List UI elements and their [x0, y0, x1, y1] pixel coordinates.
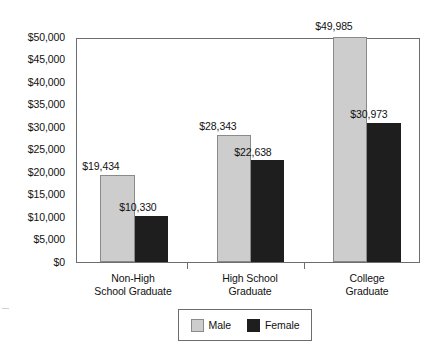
- value-label-male-high-school: $28,343: [183, 120, 253, 132]
- y-tick-label: $50,000: [1, 32, 65, 43]
- bar-male-non-high-school: [100, 175, 135, 262]
- x-category-line2: Graduate: [307, 285, 427, 298]
- value-label-female-high-school: $22,638: [218, 146, 288, 158]
- y-tick-label: $40,000: [1, 77, 65, 88]
- legend-swatch-female-icon: [247, 319, 260, 332]
- y-tick-label: $25,000: [1, 144, 65, 155]
- x-category-line1: Non-High: [73, 272, 193, 285]
- legend-item-male: Male: [191, 319, 231, 332]
- x-axis-separator: [304, 263, 305, 269]
- value-label-male-college: $49,985: [299, 20, 369, 32]
- y-tick-label: $45,000: [1, 54, 65, 65]
- bar-chart: $50,000 $45,000 $40,000 $35,000 $30,000 …: [0, 0, 443, 360]
- legend-item-female: Female: [247, 319, 299, 332]
- value-label-male-non-high-school: $19,434: [66, 160, 136, 172]
- x-category-line2: School Graduate: [73, 285, 193, 298]
- y-tick-label: $20,000: [1, 167, 65, 178]
- legend-label-male: Male: [209, 319, 231, 331]
- bar-female-non-high-school: [135, 216, 168, 263]
- x-axis-separator: [187, 263, 188, 269]
- x-category-line1: College: [307, 272, 427, 285]
- value-label-female-non-high-school: $10,330: [103, 201, 173, 213]
- x-category-line1: High School: [190, 272, 310, 285]
- value-label-female-college: $30,973: [334, 108, 404, 120]
- x-category-non-high-school: Non-High School Graduate: [73, 272, 193, 298]
- y-tick-label: $35,000: [1, 99, 65, 110]
- y-tick-label: $30,000: [1, 122, 65, 133]
- bar-male-college: [333, 37, 367, 262]
- x-category-high-school: High School Graduate: [190, 272, 310, 298]
- y-axis: $50,000 $45,000 $40,000 $35,000 $30,000 …: [0, 30, 76, 272]
- legend: Male Female: [178, 309, 312, 341]
- legend-label-female: Female: [265, 319, 299, 331]
- bar-female-college: [367, 123, 401, 262]
- scan-artifact: [2, 308, 9, 309]
- bar-female-high-school: [251, 160, 284, 262]
- x-category-line2: Graduate: [190, 285, 310, 298]
- x-category-college: College Graduate: [307, 272, 427, 298]
- y-tick-label: $10,000: [1, 212, 65, 223]
- y-tick-label: $5,000: [1, 234, 65, 245]
- y-tick-label: $15,000: [1, 189, 65, 200]
- legend-swatch-male-icon: [191, 319, 204, 332]
- y-tick-label: $0: [1, 257, 65, 268]
